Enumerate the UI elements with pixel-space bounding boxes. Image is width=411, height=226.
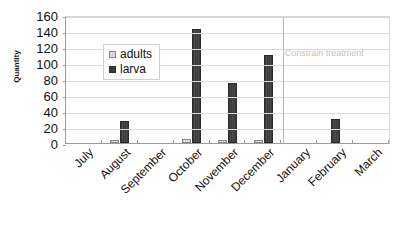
x-tick-label: July bbox=[72, 146, 96, 170]
y-tick-label: 100 bbox=[36, 58, 58, 71]
y-tick-label: 0 bbox=[51, 138, 58, 151]
category-slot bbox=[174, 17, 210, 143]
bar-larva bbox=[192, 29, 201, 143]
plot-area: Constrain treatment bbox=[65, 16, 390, 144]
y-tickmark bbox=[63, 129, 66, 130]
category-slot bbox=[210, 17, 246, 143]
y-tickmark bbox=[63, 113, 66, 114]
legend-swatch-icon bbox=[109, 51, 116, 58]
y-tickmark bbox=[63, 17, 66, 18]
chart-annotation: Constrain treatment bbox=[285, 49, 364, 58]
y-tickmark bbox=[63, 97, 66, 98]
x-tick-label: August bbox=[97, 146, 132, 181]
chart-legend: adultslarva bbox=[103, 44, 160, 80]
y-tick-label: 40 bbox=[44, 106, 58, 119]
x-axis-tick-labels: JulyAugustSeptemberOctoberNovemberDecemb… bbox=[65, 146, 390, 224]
y-tickmark bbox=[63, 33, 66, 34]
y-tick-label: 80 bbox=[44, 74, 58, 87]
category-slot bbox=[245, 17, 281, 143]
gridline bbox=[66, 17, 389, 18]
gridline bbox=[66, 97, 389, 98]
bar-larva bbox=[331, 119, 340, 143]
x-tickmark bbox=[388, 140, 389, 143]
treatment-divider bbox=[283, 17, 284, 143]
y-tick-label: 160 bbox=[36, 10, 58, 23]
bar-adults bbox=[182, 139, 191, 143]
y-tickmark bbox=[63, 49, 66, 50]
y-tick-label: 20 bbox=[44, 122, 58, 135]
gridline bbox=[66, 113, 389, 114]
category-slot bbox=[317, 17, 353, 143]
bar-chart: Quantity 020406080100120140160 Constrain… bbox=[0, 0, 411, 226]
category-slot bbox=[66, 17, 102, 143]
legend-swatch-icon bbox=[109, 66, 116, 73]
y-tick-label: 120 bbox=[36, 42, 58, 55]
y-tickmark bbox=[63, 81, 66, 82]
category-slot bbox=[102, 17, 138, 143]
category-slot bbox=[281, 17, 317, 143]
legend-item-larva: larva bbox=[109, 63, 152, 75]
bar-adults bbox=[218, 140, 227, 143]
x-tick-label: February bbox=[306, 146, 348, 188]
y-tickmark bbox=[63, 65, 66, 66]
bar-adults bbox=[110, 140, 119, 143]
gridline bbox=[66, 33, 389, 34]
y-axis-tick-labels: 020406080100120140160 bbox=[18, 16, 62, 144]
x-tick-label: March bbox=[353, 146, 385, 178]
category-slot bbox=[353, 17, 389, 143]
y-tick-label: 140 bbox=[36, 26, 58, 39]
category-slots bbox=[66, 17, 389, 143]
gridline bbox=[66, 81, 389, 82]
bar-larva bbox=[120, 121, 129, 143]
gridline bbox=[66, 129, 389, 130]
legend-label: larva bbox=[120, 63, 146, 75]
y-tick-label: 60 bbox=[44, 90, 58, 103]
legend-item-adults: adults bbox=[109, 48, 152, 60]
legend-label: adults bbox=[120, 48, 152, 60]
bar-adults bbox=[254, 140, 263, 143]
category-slot bbox=[138, 17, 174, 143]
